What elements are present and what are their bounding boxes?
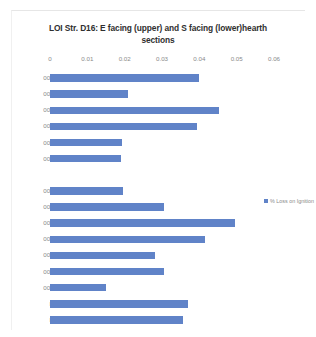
bar-row-spacer bbox=[12, 167, 306, 183]
bar-row: 0074 bbox=[12, 215, 306, 231]
bar bbox=[50, 139, 122, 146]
bar bbox=[50, 300, 188, 307]
bar-row: 0070 bbox=[12, 102, 306, 118]
bar bbox=[50, 219, 235, 226]
bar-row: 0062 bbox=[12, 199, 306, 215]
bar-row: 0078 bbox=[12, 118, 306, 134]
legend-color-swatch bbox=[264, 199, 268, 203]
chart-legend: % Loss on Ignition bbox=[264, 198, 314, 204]
chart-title: LOI Str. D16: E facing (upper) and S fac… bbox=[38, 23, 278, 46]
bar bbox=[50, 284, 106, 291]
bar-row: 0061 bbox=[12, 183, 306, 199]
bar bbox=[50, 187, 123, 194]
bar-row: 0073 bbox=[12, 70, 306, 86]
x-axis-tick-label: 0 bbox=[48, 55, 51, 62]
x-axis: 00.010.020.030.040.050.06 bbox=[12, 55, 306, 69]
bar-row: 0090 bbox=[12, 264, 306, 280]
bars-region: 0073007500700078009000910061006200740076… bbox=[12, 70, 306, 328]
bar-row: 0078 bbox=[12, 247, 306, 263]
plot-area: 00.010.020.030.040.050.06 00730075007000… bbox=[12, 55, 306, 331]
x-axis-tick-label: 0.06 bbox=[268, 55, 280, 62]
bar bbox=[50, 316, 183, 323]
bar bbox=[50, 74, 199, 81]
bar-row: 0091 bbox=[12, 151, 306, 167]
chart-panel: LOI Str. D16: E facing (upper) and S fac… bbox=[11, 10, 305, 330]
bar bbox=[50, 203, 164, 210]
bar-row: 0091 bbox=[12, 280, 306, 296]
bar bbox=[50, 236, 205, 243]
legend-label: % Loss on Ignition bbox=[270, 198, 314, 204]
bar bbox=[50, 155, 121, 162]
bar bbox=[50, 123, 197, 130]
x-axis-tick-label: 0.03 bbox=[156, 55, 168, 62]
bar bbox=[50, 90, 128, 97]
bar-row: 0075 bbox=[12, 86, 306, 102]
bar bbox=[50, 268, 164, 275]
bar bbox=[50, 252, 155, 259]
bar-row: 0076 bbox=[12, 231, 306, 247]
x-axis-tick-label: 0.01 bbox=[81, 55, 93, 62]
bar-row: 0090 bbox=[12, 135, 306, 151]
x-axis-tick-label: 0.05 bbox=[231, 55, 243, 62]
x-axis-tick-label: 0.04 bbox=[193, 55, 205, 62]
bar bbox=[50, 107, 219, 114]
x-axis-tick-label: 0.02 bbox=[119, 55, 131, 62]
bar-row: B1 bbox=[12, 296, 306, 312]
bar-row: B2 bbox=[12, 312, 306, 328]
